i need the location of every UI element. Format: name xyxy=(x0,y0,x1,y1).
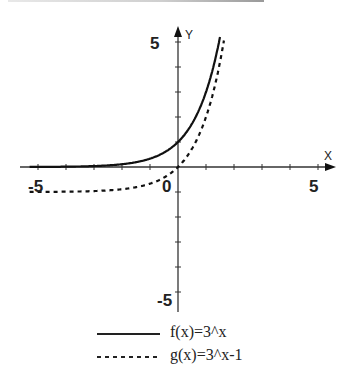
legend-label-f: f(x)=3^x xyxy=(170,323,227,341)
legend-label-g: g(x)=3^x-1 xyxy=(170,346,243,364)
curves xyxy=(30,37,224,192)
x-axis-label: X xyxy=(324,149,332,163)
origin-label: 0 xyxy=(162,177,171,196)
x-tick-label-neg5: -5 xyxy=(28,177,43,196)
y-tick-label-5: 5 xyxy=(150,34,159,53)
x-tick-label-5: 5 xyxy=(309,177,318,196)
axes xyxy=(20,26,336,312)
y-axis-label: Y xyxy=(185,28,193,42)
y-tick-label-neg5: -5 xyxy=(157,291,172,310)
